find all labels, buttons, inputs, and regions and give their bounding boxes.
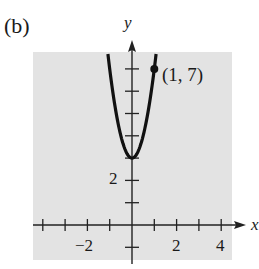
panel-label: (b) [4, 13, 30, 39]
x-tick-label-neg2: −2 [75, 236, 93, 256]
point-label: (1, 7) [162, 64, 203, 86]
y-axis-label: y [124, 13, 132, 33]
x-tick-label-2: 2 [172, 236, 181, 256]
x-axis-label: x [251, 215, 259, 235]
x-tick-label-4: 4 [216, 236, 225, 256]
y-tick-label-2: 2 [109, 169, 118, 189]
data-point [150, 65, 158, 73]
plot-area [0, 0, 259, 269]
